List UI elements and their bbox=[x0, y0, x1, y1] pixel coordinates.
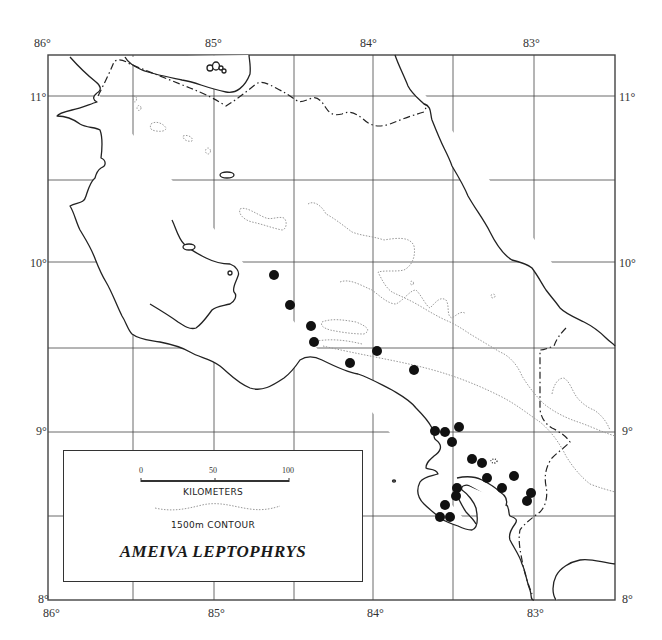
lat-label-right: 11° bbox=[619, 90, 635, 105]
contour-patch bbox=[150, 122, 166, 131]
locality-dot bbox=[440, 500, 450, 510]
locality-dot bbox=[445, 512, 455, 522]
legend-graphics bbox=[64, 451, 364, 583]
lat-label-left: 8° bbox=[38, 592, 49, 607]
lon-label-top: 86° bbox=[34, 36, 51, 51]
locality-dot bbox=[454, 422, 464, 432]
locality-dot bbox=[497, 483, 507, 493]
lat-label-right: 10° bbox=[619, 256, 636, 271]
locality-dot bbox=[372, 346, 382, 356]
locality-dot bbox=[467, 454, 477, 464]
contour-ridge bbox=[340, 281, 466, 318]
contour-patch bbox=[137, 106, 141, 111]
caribbean-coastline bbox=[395, 55, 615, 346]
lake bbox=[183, 244, 195, 250]
locality-dot bbox=[409, 365, 419, 375]
lon-label-bottom: 85° bbox=[208, 606, 225, 621]
border-panama bbox=[519, 328, 570, 594]
lon-label-top: 84° bbox=[360, 36, 377, 51]
lon-label-bottom: 86° bbox=[43, 606, 60, 621]
scale-unit-label: KILOMETERS bbox=[64, 487, 362, 497]
contour-legend-sample bbox=[155, 504, 280, 510]
island bbox=[491, 459, 497, 463]
legend-box: 0 50 100 KILOMETERS 1500m CONTOUR AMEIVA… bbox=[63, 450, 363, 582]
locality-dot bbox=[522, 496, 532, 506]
locality-dot bbox=[482, 473, 492, 483]
island bbox=[228, 271, 232, 275]
contour-east bbox=[552, 378, 610, 430]
contour-main bbox=[308, 203, 615, 436]
lon-label-bottom: 84° bbox=[367, 606, 384, 621]
locality-dot bbox=[477, 458, 487, 468]
island bbox=[222, 69, 226, 73]
contour-ridge-3 bbox=[313, 340, 362, 344]
contour-legend-label: 1500m CONTOUR bbox=[64, 520, 362, 530]
contour-patch bbox=[491, 294, 495, 298]
lat-label-right: 9° bbox=[622, 424, 633, 439]
lat-label-left: 9° bbox=[36, 424, 47, 439]
scale-bar bbox=[141, 478, 289, 482]
lake bbox=[220, 172, 234, 178]
locality-dot bbox=[430, 426, 440, 436]
contour-patch bbox=[240, 208, 287, 230]
locality-dot bbox=[306, 321, 316, 331]
lat-label-left: 11° bbox=[30, 90, 46, 105]
contour-patch bbox=[411, 281, 414, 285]
panama-coast bbox=[553, 559, 615, 600]
lon-label-bottom: 83° bbox=[527, 606, 544, 621]
contour-patch bbox=[134, 96, 137, 102]
distribution-map: 86°85°84°83°86°85°84°83°11°10°9°8°11°10°… bbox=[0, 0, 662, 640]
island bbox=[393, 480, 396, 482]
nicaragua-coast-nw bbox=[70, 57, 100, 93]
locality-dot bbox=[269, 270, 279, 280]
lon-label-top: 83° bbox=[523, 36, 540, 51]
contour-patch bbox=[183, 135, 192, 141]
lon-label-top: 85° bbox=[205, 36, 222, 51]
locality-dot bbox=[440, 427, 450, 437]
contour-ridge-2 bbox=[321, 320, 367, 334]
locality-dot bbox=[447, 437, 457, 447]
locality-dot bbox=[345, 358, 355, 368]
locality-dot bbox=[509, 471, 519, 481]
contour-patch bbox=[206, 148, 211, 154]
locality-dot bbox=[435, 512, 445, 522]
lat-label-right: 8° bbox=[622, 592, 633, 607]
island bbox=[213, 62, 220, 70]
species-title: AMEIVA LEPTOPHRYS bbox=[64, 542, 362, 562]
locality-dot bbox=[285, 300, 295, 310]
locality-dot bbox=[309, 337, 319, 347]
contour-main-south bbox=[323, 346, 615, 492]
locality-dot bbox=[451, 491, 461, 501]
lat-label-left: 10° bbox=[30, 256, 47, 271]
